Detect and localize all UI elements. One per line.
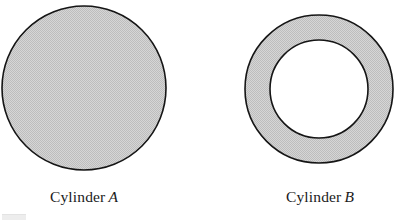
- cylinder-a-caption-word: Cylinder: [50, 188, 105, 205]
- cylinder-cross-section-figure: CylinderA CylinderB: [0, 0, 401, 224]
- cylinder-b-shape: [245, 15, 393, 163]
- cylinder-a-caption: CylinderA: [0, 186, 168, 208]
- cylinder-a-shape: [2, 6, 166, 170]
- cylinder-b-caption-symbol: B: [341, 188, 354, 205]
- cylinder-a-caption-symbol: A: [105, 188, 118, 205]
- cylinder-b-caption-word: Cylinder: [286, 188, 341, 205]
- cylinder-a-fill: [2, 6, 166, 170]
- cylinder-b-caption: CylinderB: [240, 186, 400, 208]
- scan-artifact: [2, 214, 26, 220]
